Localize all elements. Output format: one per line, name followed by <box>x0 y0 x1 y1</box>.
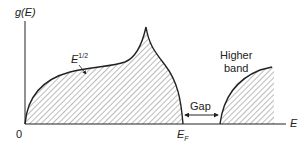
x-axis-label: E <box>290 118 297 129</box>
higher-band-label-2: band <box>224 63 248 74</box>
fermi-label: EF <box>177 129 189 142</box>
curve-label: E1/2 <box>71 52 88 65</box>
higher-band-label-1: Higher <box>220 50 252 61</box>
density-of-states-diagram <box>0 0 307 151</box>
origin-label: 0 <box>16 129 22 140</box>
y-axis-label: g(E) <box>15 7 36 18</box>
higher-band-region <box>220 67 274 124</box>
gap-label: Gap <box>190 101 211 112</box>
lower-band-region <box>25 27 183 124</box>
